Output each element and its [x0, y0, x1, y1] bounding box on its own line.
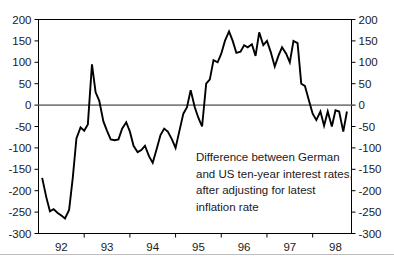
annotation-line: inflation rate: [196, 201, 259, 213]
annotation-line: and US ten-year interest rates,: [196, 168, 353, 180]
y-axis-right-labels: 200150100500-50-100-150-200-250-300: [359, 14, 382, 240]
annotation-line: after adjusting for latest: [196, 184, 316, 196]
y-axis-left-tick-label: 0: [25, 99, 31, 111]
y-axis-right-tick-label: -150: [359, 163, 382, 175]
y-axis-left-tick-label: -250: [8, 206, 31, 218]
y-axis-left-tick-label: -100: [8, 142, 31, 154]
y-axis-right-tick-label: -250: [359, 206, 382, 218]
y-axis-left-tick-label: -150: [8, 163, 31, 175]
y-axis-right-tick-label: -100: [359, 142, 382, 154]
plot-frame: [39, 20, 352, 234]
y-axis-left-tick-label: -300: [8, 228, 31, 240]
y-axis-left-tick-label: 100: [12, 56, 31, 68]
x-axis-tick-label: 94: [146, 241, 159, 253]
y-axis-right-tick-label: 50: [359, 78, 372, 90]
y-axis-left-tick-label: 150: [12, 35, 31, 47]
y-axis-right-tick-label: -300: [359, 228, 382, 240]
x-axis-labels: 92939495969798: [55, 241, 342, 253]
chart-container: 200150100500-50-100-150-200-250-300 2001…: [0, 0, 394, 268]
y-axis-left-tick-label: 50: [19, 78, 32, 90]
y-axis-right-tick-label: 100: [359, 56, 378, 68]
y-axis-left-tick-label: -50: [15, 121, 32, 133]
x-axis-tick-label: 96: [238, 241, 251, 253]
x-axis-tick-label: 92: [55, 241, 68, 253]
y-axis-left-labels: 200150100500-50-100-150-200-250-300: [8, 14, 31, 240]
y-axis-right-tick-label: 0: [359, 99, 365, 111]
x-axis-tick-label: 97: [283, 241, 296, 253]
annotation-line: Difference between German: [196, 151, 340, 163]
y-axis-right-tick-label: 150: [359, 35, 378, 47]
chart-annotation: Difference between Germanand US ten-year…: [196, 151, 353, 213]
x-axis-tick-label: 95: [192, 241, 205, 253]
x-axis-tick-label: 98: [329, 241, 342, 253]
y-axis-left-tick-label: 200: [12, 14, 31, 26]
y-axis-right-tick-label: -200: [359, 185, 382, 197]
interest-rate-differential-chart: 200150100500-50-100-150-200-250-300 2001…: [0, 0, 394, 268]
y-axis-right-tick-label: 200: [359, 14, 378, 26]
x-axis-ticks: [84, 234, 312, 238]
y-axis-right-tick-label: -50: [359, 121, 376, 133]
x-axis-tick-label: 93: [101, 241, 114, 253]
y-axis-right-ticks: [352, 20, 356, 234]
y-axis-left-tick-label: -200: [8, 185, 31, 197]
y-axis-left-ticks: [35, 20, 39, 234]
